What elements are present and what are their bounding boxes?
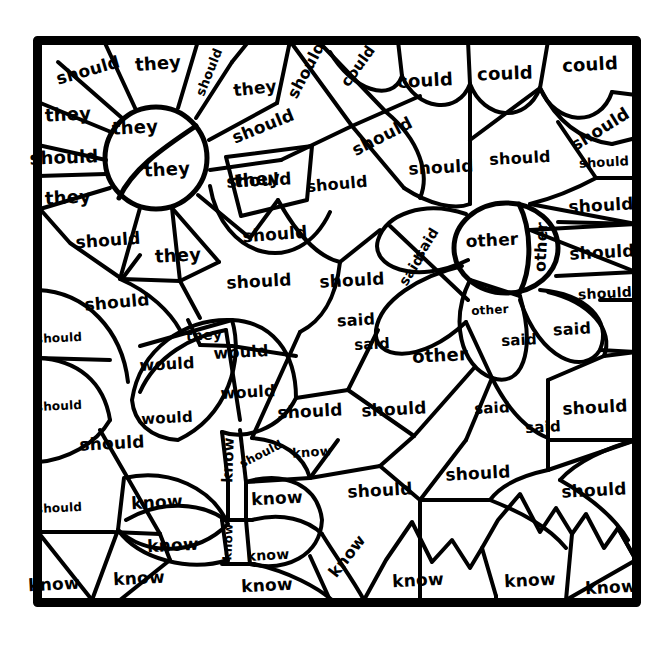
sight-word-said[interactable]: said [552,319,591,340]
sight-word-should[interactable]: should [226,269,292,292]
sight-word-said[interactable]: said [336,310,375,331]
sight-word-they[interactable]: they [111,115,158,138]
sight-word-know[interactable]: know [251,487,304,510]
sight-word-should[interactable]: should [35,398,82,414]
sight-word-know[interactable]: know [246,546,289,564]
sight-word-should[interactable]: should [561,478,627,501]
sight-word-said[interactable]: said [354,334,391,354]
sight-word-know[interactable]: know [585,576,638,599]
sight-word-said[interactable]: said [474,398,511,418]
sight-word-should[interactable]: should [579,153,630,171]
sight-word-could[interactable]: could [562,52,619,76]
sight-word-should[interactable]: should [35,500,82,516]
sight-word-should[interactable]: should [489,147,551,169]
sight-word-should[interactable]: should [361,397,427,420]
sight-word-other[interactable]: other [465,229,519,252]
sight-word-should[interactable]: should [578,284,633,303]
sight-word-should[interactable]: should [569,240,635,263]
sight-word-would[interactable]: would [213,341,269,363]
sight-word-should[interactable]: should [29,145,99,168]
sight-word-know[interactable]: know [241,574,294,597]
sight-word-said[interactable]: said [525,417,562,437]
sight-word-should[interactable]: should [347,478,413,501]
sight-word-know[interactable]: know [28,573,81,596]
sight-word-should[interactable]: should [408,155,474,178]
sight-word-should[interactable]: should [319,268,385,291]
sight-word-other[interactable]: other [412,343,469,367]
sight-word-know[interactable]: know [220,523,235,560]
sight-word-they[interactable]: they [134,51,182,75]
sight-word-know[interactable]: know [113,567,166,590]
sight-word-know[interactable]: know [131,491,184,514]
worksheet-page: shouldtheyshouldtheyshouldcouldcouldcoul… [0,0,672,649]
sight-word-they[interactable]: they [154,243,201,266]
sight-word-they[interactable]: they [44,102,91,125]
sight-word-would[interactable]: would [141,408,194,429]
sight-word-said[interactable]: said [501,330,538,350]
sight-word-they[interactable]: they [44,185,91,208]
sight-word-other[interactable]: other [530,222,552,273]
sight-word-other[interactable]: other [471,302,509,318]
sight-word-should[interactable]: should [277,399,343,422]
sight-word-know[interactable]: know [292,443,333,461]
sight-word-should[interactable]: should [35,330,82,346]
sight-word-know[interactable]: know [147,534,200,557]
sight-word-they[interactable]: they [143,157,190,180]
sight-word-know[interactable]: know [504,569,557,592]
sight-word-could[interactable]: could [397,68,454,92]
sight-word-know[interactable]: know [218,437,238,483]
sight-word-would[interactable]: would [139,353,195,375]
sight-word-they[interactable]: they [233,167,281,192]
sight-word-they[interactable]: they [186,326,223,344]
sight-word-should[interactable]: should [445,461,511,484]
sight-word-could[interactable]: could [477,62,534,85]
sight-word-should[interactable]: should [79,431,145,454]
sight-word-would[interactable]: would [220,381,276,403]
sight-word-should[interactable]: should [562,395,628,418]
sight-word-know[interactable]: know [392,569,445,592]
sight-word-should[interactable]: should [568,193,634,216]
